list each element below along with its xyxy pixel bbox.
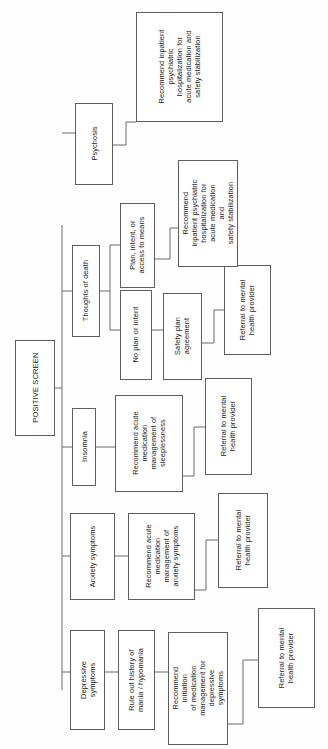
node-safety-plan-agreement[interactable]: Safety plan agreement	[163, 293, 202, 380]
node-psychosis-label: Psychosis	[89, 127, 98, 161]
node-referral-insomnia-label: Referral to mental health provider	[219, 396, 237, 457]
edge-safetyplan-referral	[202, 310, 224, 343]
node-insomnia[interactable]: Insomnia	[72, 408, 96, 486]
node-rule-out-mania-label: Rule out history of mania / hypomania	[127, 648, 145, 712]
node-recommend-acute-anxiety[interactable]: Recommend acute medication management of…	[128, 513, 195, 600]
node-anxiety-symptoms-label: Anxiety symptoms	[88, 526, 97, 588]
node-depressive-symptoms-label: Depressive symptoms	[78, 661, 96, 699]
flowchart-canvas: POSITIVE SCREEN Depressive symptoms Rule…	[0, 0, 328, 749]
node-anxiety-symptoms[interactable]: Anxiety symptoms	[70, 513, 115, 600]
node-recommend-inpatient-psychosis-label: Recommend inpatient psychiatric hospital…	[157, 30, 202, 104]
node-recommend-initiation-depressive[interactable]: Recommend initiation of medication manag…	[168, 632, 228, 745]
edge-psychosis-inpatient	[113, 122, 136, 145]
edge-recommend-referral-insomnia	[183, 427, 205, 476]
node-thoughts-of-death-label: Thoughts of death	[81, 260, 90, 321]
node-recommend-acute-anxiety-label: Recommend acute medication management of…	[143, 525, 179, 589]
node-referral-safety-plan[interactable]: Referral to mental health provider	[224, 265, 271, 355]
node-referral-anxiety[interactable]: Referral to mental health provider	[218, 493, 268, 588]
edge-recommend-referral-anxiety	[195, 540, 218, 590]
node-positive-screen[interactable]: POSITIVE SCREEN	[15, 340, 55, 436]
node-recommend-inpatient-psychosis[interactable]: Recommend inpatient psychiatric hospital…	[136, 12, 223, 122]
node-plan-intent-means[interactable]: Plan, intent, or access to means	[120, 203, 155, 288]
node-referral-insomnia[interactable]: Referral to mental health provider	[205, 378, 252, 475]
node-referral-depressive[interactable]: Referral to mental health provider	[258, 608, 315, 708]
node-recommend-initiation-depressive-label: Recommend initiation of medication manag…	[171, 661, 225, 716]
node-referral-anxiety-label: Referral to mental health provider	[234, 510, 252, 571]
node-positive-screen-label: POSITIVE SCREEN	[30, 353, 39, 423]
node-referral-depressive-label: Referral to mental health provider	[277, 628, 295, 689]
edge-recommend-referral-depressive	[228, 660, 258, 724]
node-rule-out-mania[interactable]: Rule out history of mania / hypomania	[118, 630, 155, 730]
node-plan-intent-means-label: Plan, intent, or access to means	[128, 217, 146, 274]
node-recommend-acute-sleeplessness[interactable]: Recommend acute medication management of…	[115, 395, 183, 492]
node-recommend-acute-sleeplessness-label: Recommend acute medication management of…	[131, 412, 167, 476]
node-no-plan-or-intent[interactable]: No plan or intent	[120, 290, 152, 380]
node-safety-plan-agreement-label: Safety plan agreement	[173, 317, 191, 355]
node-psychosis[interactable]: Psychosis	[75, 103, 113, 185]
node-recommend-inpatient-suicidality-label: Recommend inpatient psychiatric hospital…	[181, 180, 235, 247]
edge-plan-inpatient	[155, 228, 178, 259]
node-recommend-inpatient-suicidality[interactable]: Recommend inpatient psychiatric hospital…	[178, 160, 238, 267]
node-no-plan-or-intent-label: No plan or intent	[131, 307, 140, 363]
node-depressive-symptoms[interactable]: Depressive symptoms	[70, 630, 105, 730]
node-referral-safety-plan-label: Referral to mental health provider	[238, 280, 256, 341]
node-thoughts-of-death[interactable]: Thoughts of death	[72, 245, 100, 337]
node-insomnia-label: Insomnia	[79, 432, 88, 463]
